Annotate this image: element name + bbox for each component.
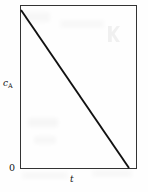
origin-tick-label: 0 <box>9 163 15 173</box>
x-axis-label: t <box>70 175 74 184</box>
plot-area <box>0 0 148 192</box>
y-axis-subscript: A <box>8 82 13 90</box>
y-axis-label: cA <box>3 79 13 89</box>
chart-figure: cA 0 t <box>0 0 148 192</box>
concentration-decay-line <box>21 10 129 168</box>
plot-frame <box>21 6 137 169</box>
